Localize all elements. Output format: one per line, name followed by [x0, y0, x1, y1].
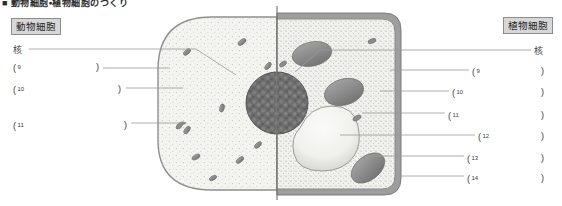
right-blank-12-close: ) — [541, 131, 544, 141]
right-blank-13-number: 13 — [472, 155, 479, 161]
right-blank-13-open[interactable]: (13 — [467, 153, 478, 164]
right-blank-11-open[interactable]: (11 — [448, 110, 459, 121]
left-blank-9-number: 9 — [18, 64, 21, 70]
right-label-nucleus: 核 — [534, 46, 543, 56]
right-blank-9-open[interactable]: (9 — [472, 66, 480, 77]
worksheet-canvas: ■ 動物細胞・植物細胞のつくり 動物細胞 植物細胞 — [0, 0, 562, 206]
right-blank-13-close: ) — [541, 153, 544, 163]
right-blank-12-number: 12 — [483, 133, 490, 139]
right-blank-14-number: 14 — [472, 175, 479, 181]
right-blank-11-close: ) — [541, 110, 544, 120]
left-blank-9-close: ) — [96, 62, 99, 72]
left-label-nucleus: 核 — [13, 45, 22, 55]
left-blank-11-close: ) — [124, 120, 127, 130]
right-blank-9-close: ) — [541, 66, 544, 76]
left-blank-11-open[interactable]: (11 — [13, 120, 24, 131]
left-blank-11-number: 11 — [18, 122, 24, 128]
right-blank-10-close: ) — [541, 87, 544, 97]
right-blank-10-number: 10 — [457, 89, 464, 95]
left-blank-9-open[interactable]: (9 — [13, 62, 21, 73]
left-blank-10-close: ) — [118, 84, 121, 94]
right-blank-11-number: 11 — [453, 112, 459, 118]
right-blank-10-open[interactable]: (10 — [452, 87, 463, 98]
right-blank-9-number: 9 — [477, 68, 480, 74]
right-blank-14-open[interactable]: (14 — [467, 173, 478, 184]
left-blank-10-number: 10 — [18, 86, 25, 92]
right-blank-14-close: ) — [541, 173, 544, 183]
left-blank-10-open[interactable]: (10 — [13, 84, 24, 95]
right-blank-12-open[interactable]: (12 — [478, 131, 489, 142]
